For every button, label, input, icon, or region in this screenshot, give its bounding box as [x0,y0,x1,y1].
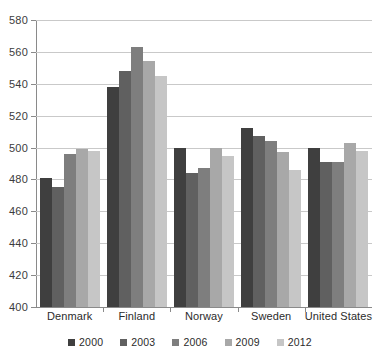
bar [198,168,210,307]
bar [344,143,356,307]
bar [241,128,253,307]
legend-item[interactable]: 2003 [120,336,155,348]
y-axis-tick-label: 480 [9,173,28,185]
legend-item[interactable]: 2012 [277,336,312,348]
legend-label: 2000 [79,336,103,348]
bar [320,162,332,307]
x-axis-tick-label: United States [305,310,372,322]
y-axis-tick-label: 540 [9,78,28,90]
y-axis-tick-label: 440 [9,237,28,249]
bar [253,136,265,307]
bar [210,148,222,307]
legend-item[interactable]: 2009 [225,336,260,348]
y-axis-tick-label: 420 [9,269,28,281]
legend-label: 2012 [288,336,312,348]
y-axis-tick-label: 560 [9,46,28,58]
bar [131,47,143,307]
bar-group [40,20,100,307]
legend-swatch-icon [68,339,75,346]
y-axis-tick-label: 460 [9,205,28,217]
bar-group [174,20,234,307]
legend-label: 2006 [183,336,207,348]
bar [76,149,88,307]
legend-item[interactable]: 2000 [68,336,103,348]
bar-chart: 580560540520500480460440420400 DenmarkFi… [0,0,380,359]
legend-swatch-icon [225,339,232,346]
legend-label: 2009 [236,336,260,348]
bar [277,152,289,307]
bar [155,76,167,307]
bar [265,141,277,307]
bar [356,151,368,307]
bar-group [308,20,368,307]
bar [289,170,301,307]
bar [186,173,198,307]
y-axis-tick-label: 580 [9,14,28,26]
legend-swatch-icon [277,339,284,346]
legend-item[interactable]: 2006 [172,336,207,348]
bar [174,148,186,307]
legend: 20002003200620092012 [0,336,380,348]
bar-group [241,20,301,307]
y-axis-tick-label: 520 [9,110,28,122]
x-axis-tick-label: Norway [170,310,237,322]
x-axis-tick-label: Finland [103,310,170,322]
legend-label: 2003 [131,336,155,348]
bar [332,162,344,307]
y-axis-tick-label: 500 [9,142,28,154]
y-axis: 580560540520500480460440420400 [0,0,36,359]
bar [143,61,155,307]
legend-swatch-icon [120,339,127,346]
y-axis-tick-label: 400 [9,301,28,313]
bar-groups [36,20,372,307]
plot-area [36,20,372,307]
legend-swatch-icon [172,339,179,346]
x-axis-tick-label: Denmark [36,310,103,322]
bar [308,148,320,307]
bar [64,154,76,307]
bar [88,151,100,307]
bar [222,156,234,307]
bar-group [107,20,167,307]
bar [119,71,131,307]
bar [107,87,119,307]
bar [40,178,52,307]
x-axis-labels: DenmarkFinlandNorwaySwedenUnited States [36,310,372,322]
x-axis-tick-label: Sweden [238,310,305,322]
bar [52,187,64,307]
